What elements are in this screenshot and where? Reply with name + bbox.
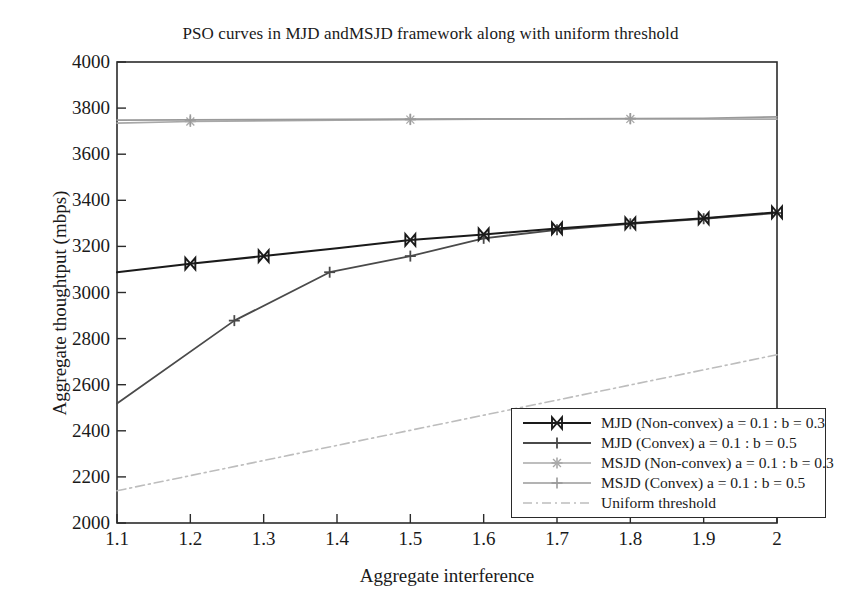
series-group: [117, 206, 782, 272]
legend-item[interactable]: MJD (Convex) a = 0.1 : b = 0.5: [512, 433, 825, 453]
legend-item[interactable]: MSJD (Convex) a = 0.1 : b = 0.5: [512, 473, 825, 493]
legend-swatch: [520, 474, 594, 492]
legend-swatch: [520, 414, 594, 432]
legend-swatch: [520, 434, 594, 452]
legend-sample-line: [520, 434, 594, 452]
legend-sample-line: [520, 414, 594, 432]
legend-item[interactable]: Uniform threshold: [512, 493, 825, 513]
legend-sample-line: [520, 454, 594, 472]
chart-figure: PSO curves in MJD andMSJD framework alon…: [0, 0, 861, 609]
legend-swatch: [520, 454, 594, 472]
legend-label: MJD (Non-convex) a = 0.1 : b = 0.3: [601, 414, 825, 432]
legend-sample-line: [520, 494, 594, 512]
legend-item[interactable]: MJD (Non-convex) a = 0.1 : b = 0.3: [512, 413, 825, 433]
legend-sample-line: [520, 474, 594, 492]
legend-swatch: [520, 494, 594, 512]
legend-label: MSJD (Non-convex) a = 0.1 : b = 0.3: [601, 454, 834, 472]
legend-item[interactable]: MSJD (Non-convex) a = 0.1 : b = 0.3: [512, 453, 825, 473]
chart-legend: MJD (Non-convex) a = 0.1 : b = 0.3MJD (C…: [511, 408, 826, 518]
legend-label: MSJD (Convex) a = 0.1 : b = 0.5: [601, 474, 805, 492]
legend-label: MJD (Convex) a = 0.1 : b = 0.5: [601, 434, 797, 452]
legend-label: Uniform threshold: [601, 494, 716, 512]
